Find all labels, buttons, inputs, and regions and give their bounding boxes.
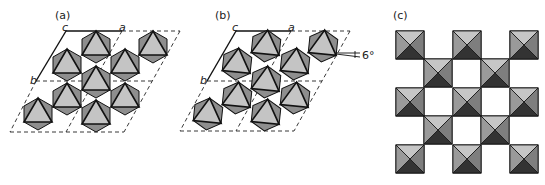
axis-c-label: c [62, 21, 68, 34]
octahedra-network [396, 31, 538, 173]
axis-b-label: b [30, 74, 37, 87]
panel-b-label: (b) [215, 9, 231, 22]
diagram-canvas: (a) c a b [0, 0, 545, 185]
axis-b-label: b [200, 74, 207, 87]
axis-c-label: c [232, 21, 238, 34]
axis-a-label: a [119, 21, 126, 34]
panel-b: (b) 6° [180, 9, 375, 132]
panel-c-label: (c) [393, 9, 408, 22]
panel-a: (a) c a b [10, 9, 180, 132]
tilt-angle-label: 6° [362, 49, 375, 62]
octahedra-layer-tilted [192, 29, 338, 133]
tilt-angle-indicator [336, 51, 360, 58]
octahedra-layer [24, 31, 167, 132]
axis-a-label: a [288, 21, 295, 34]
panel-c: (c) [393, 9, 538, 173]
